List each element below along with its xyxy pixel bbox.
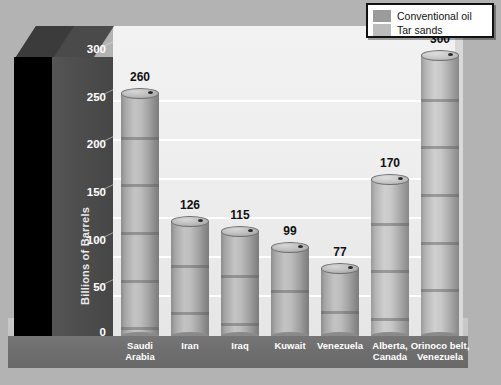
bar-value-label: 77 [310, 245, 370, 259]
barrel-bung-icon [298, 245, 303, 248]
category-label-line2: Arabia [106, 351, 174, 362]
barrel-rib [421, 242, 459, 245]
barrel-bung-icon [448, 53, 453, 56]
category-label-line1: Orinoco belt, [406, 340, 474, 351]
bar-iran [171, 216, 209, 336]
bar-kuwait [271, 242, 309, 336]
barrel-rib [221, 275, 259, 278]
category-label-line2: Venezuela [406, 351, 474, 362]
barrel-rib [121, 137, 159, 140]
barrel-body [171, 221, 209, 337]
barrel-rib [171, 265, 209, 268]
bar-saudi-arabia [121, 88, 159, 336]
barrel-rib [321, 311, 359, 314]
barrel-bung-icon [248, 229, 253, 232]
barrel-rib [121, 280, 159, 283]
bar-value-label: 260 [110, 70, 170, 84]
category-label-6: Orinoco belt,Venezuela [406, 340, 474, 362]
barrel-rib [371, 270, 409, 273]
gridline-250 [113, 139, 463, 141]
barrel-body [371, 179, 409, 337]
barrel-bung-icon [398, 177, 403, 180]
barrel-rib [421, 99, 459, 102]
bar-value-label: 115 [210, 208, 270, 222]
bar-iraq [221, 226, 259, 336]
bar-alberta-canada [371, 174, 409, 336]
barrel-cap [271, 242, 309, 253]
barrel-rib [221, 323, 259, 326]
legend-item-tar-sands: Tar sands [373, 23, 443, 37]
barrel-cap [371, 174, 409, 185]
legend-label-tar-sands: Tar sands [397, 24, 443, 36]
legend-label-conventional-oil: Conventional oil [397, 10, 472, 22]
barrel-body [121, 93, 159, 337]
barrel-bung-icon [348, 266, 353, 269]
barrel-bung-icon [148, 91, 153, 94]
bar-value-label: 99 [260, 224, 320, 238]
barrel-cap [321, 263, 359, 274]
bar-venezuela [321, 263, 359, 336]
bar-value-label: 170 [360, 156, 420, 170]
barrel-cap [421, 50, 459, 61]
barrel-rib [121, 327, 159, 330]
barrel-body [321, 268, 359, 337]
legend-swatch-tar-sands [373, 24, 391, 36]
legend-swatch-conventional-oil [373, 10, 391, 22]
barrel-rib [371, 223, 409, 226]
barrel-body [421, 55, 459, 337]
barrel-body [221, 231, 259, 337]
legend-item-conventional-oil: Conventional oil [373, 9, 472, 23]
barrel-rib [421, 146, 459, 149]
barrel-bung-icon [198, 219, 203, 222]
barrel-rib [171, 312, 209, 315]
barrel-cap [171, 216, 209, 227]
barrel-rib [271, 290, 309, 293]
barrel-rib [121, 184, 159, 187]
barrel-rib [421, 194, 459, 197]
barrel-rib [371, 318, 409, 321]
barrel-rib [421, 289, 459, 292]
gridline-150 [113, 217, 463, 219]
chart-canvas: 2601261159977170300 Billions of Barrels … [0, 0, 501, 385]
barrel-rib [121, 232, 159, 235]
gridline-200 [113, 178, 463, 180]
gridline-300 [113, 100, 463, 102]
y-axis-block-face-dark [14, 57, 53, 342]
barrel-body [271, 247, 309, 337]
chart-legend: Conventional oil Tar sands [366, 3, 494, 38]
barrel-cap [121, 88, 159, 99]
bar-orinoco-belt-venezuela [421, 50, 459, 336]
